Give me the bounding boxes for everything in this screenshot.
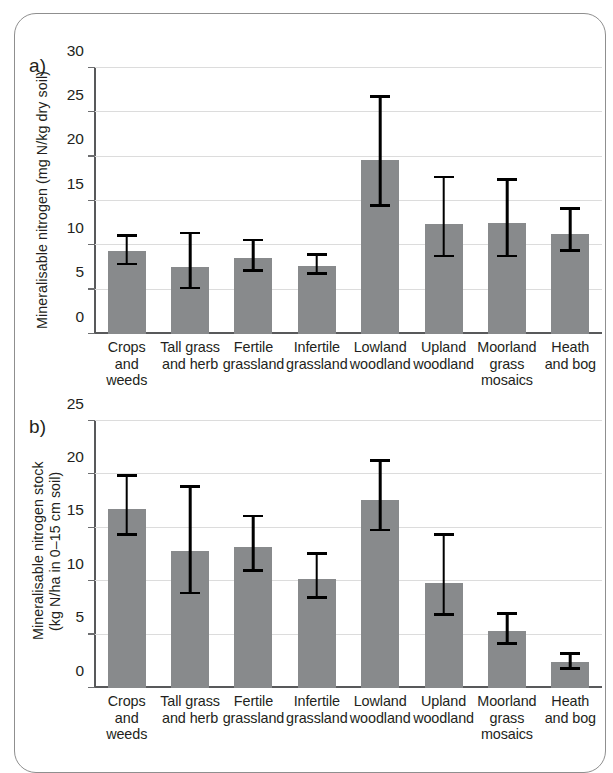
panel-b-error-cap-upper (560, 652, 580, 655)
panel-a-error-bar (125, 236, 128, 264)
panel-a-error-cap-lower (434, 255, 454, 258)
panel-b-error-cap-upper (243, 515, 263, 518)
panel-b-error-cap-lower (370, 529, 390, 532)
panel-b-error-cap-upper (117, 474, 137, 477)
panel-a-y-tick (88, 67, 95, 68)
panel-b-error-bar (442, 534, 445, 614)
panel-b-bar-group (158, 421, 221, 688)
panel-a-error-cap-upper (117, 234, 137, 237)
panel-a-bar-group (539, 68, 602, 334)
panel-b-y-tick (88, 527, 95, 528)
panel-a-error-bar (442, 177, 445, 256)
panel-b-x-label: Fertile grassland (222, 693, 285, 743)
panel-a-error-bar (506, 180, 509, 256)
panel-b-bar-group (222, 421, 285, 688)
panel-a-y-tick-label: 30 (67, 42, 84, 60)
panel-a-bar-group (475, 68, 538, 334)
panel-a-error-cap-lower (180, 287, 200, 290)
panel-a-x-label: Fertile grassland (222, 339, 285, 389)
panel-a-y-axis-title: Mineralisable nitrogen (mg N/kg dry soil… (34, 64, 51, 336)
panel-b-x-label: Infertile grassland (285, 693, 348, 743)
panel-a-y-tick (88, 288, 95, 289)
panel-a-error-cap-upper (307, 253, 327, 256)
panel-b-x-label: Heath and bog (539, 693, 602, 743)
panel-a-y-tick (88, 333, 95, 334)
panel-b-y-tick-label: 20 (67, 448, 84, 466)
panel-a-error-cap-lower (307, 272, 327, 275)
panel-a-error-cap-upper (497, 178, 517, 181)
panel-a-x-label: Infertile grassland (285, 339, 348, 389)
panel-a-error-cap-lower (560, 249, 580, 252)
panel-b-error-cap-upper (497, 612, 517, 615)
panel-a-error-cap-upper (243, 239, 263, 242)
panel-b-x-label: Upland woodland (412, 693, 475, 743)
panel-a-x-label: Upland woodland (412, 339, 475, 389)
panel-a-bar-group (222, 68, 285, 334)
panel-b-error-bar (316, 553, 319, 597)
panel-a-x-label: Moorland grass mosaics (475, 339, 538, 389)
panel-b-error-cap-upper (180, 485, 200, 488)
panel-a-error-bar (379, 96, 382, 205)
panel-b-error-cap-lower (307, 596, 327, 599)
panel-a-y-tick-label: 25 (67, 86, 84, 104)
panel-b-x-label: Moorland grass mosaics (475, 693, 538, 743)
panel-a-y-tick-label: 10 (67, 219, 84, 237)
panel-a-y-tick-label: 5 (75, 263, 84, 281)
panel-b-bar-group (285, 421, 348, 688)
panel-b-y-tick (88, 633, 95, 634)
panel-a-x-label: Crops and weeds (95, 339, 158, 389)
panel-a-y-tick-label: 15 (67, 175, 84, 193)
panel-a-bar-group (412, 68, 475, 334)
panel-b-error-bar (379, 461, 382, 530)
panel-b-error-cap-lower (243, 569, 263, 572)
panel-a-error-bar (316, 254, 319, 274)
panel-b-error-cap-upper (307, 552, 327, 555)
panel-b-bar-group (95, 421, 158, 688)
panel-a-bar (298, 266, 336, 334)
panel-b-error-bar (506, 613, 509, 643)
panel-a-plot-area: 051015202530 (95, 68, 602, 334)
panel-a-y-tick-label: 20 (67, 130, 84, 148)
panel-b-y-tick-label: 0 (75, 662, 84, 680)
panel-b-y-tick-label: 15 (67, 501, 84, 519)
panel-b-error-bar (252, 516, 255, 570)
panel-b-y-tick-label: 5 (75, 608, 84, 626)
panel-a-error-cap-upper (180, 232, 200, 235)
panel-b-error-cap-lower (117, 533, 137, 536)
panel-b-error-cap-upper (370, 459, 390, 462)
panel-b-y-tick-label: 10 (67, 555, 84, 573)
panel-a-y-tick (88, 111, 95, 112)
panel-a-y-tick (88, 244, 95, 245)
panel-a-x-label: Tall grass and herb (158, 339, 221, 389)
chart-panel-a: a) Mineralisable nitrogen (mg N/kg dry s… (0, 0, 613, 394)
panel-b-error-cap-upper (434, 533, 454, 536)
panel-a-error-cap-upper (560, 207, 580, 210)
panel-b-error-bar (189, 486, 192, 593)
panel-a-bar-group (158, 68, 221, 334)
panel-b-error-cap-lower (180, 592, 200, 595)
panel-b-error-bar (125, 475, 128, 534)
panel-b-y-tick (88, 473, 95, 474)
panel-b-y-axis-title: Mineralisable nitrogen stock (kg N/ha in… (30, 408, 64, 694)
panel-a-bar-group (285, 68, 348, 334)
panel-a-y-tick (88, 155, 95, 156)
panel-b-x-label: Tall grass and herb (158, 693, 221, 743)
panel-b-y-tick-label: 25 (67, 395, 84, 413)
panel-b-bar-group (412, 421, 475, 688)
panel-a-error-bar (189, 233, 192, 288)
panel-a-x-axis-labels: Crops and weedsTall grass and herbFertil… (95, 339, 602, 389)
panel-a-error-bar (569, 208, 572, 251)
panel-a-y-tick-label: 0 (75, 308, 84, 326)
chart-panel-b: b) Mineralisable nitrogen stock (kg N/ha… (0, 394, 613, 748)
panel-b-plot-area: 0510152025 (95, 421, 602, 688)
panel-b-error-cap-lower (434, 613, 454, 616)
panel-b-x-axis-labels: Crops and weedsTall grass and herbFertil… (95, 693, 602, 743)
panel-b-bar-group (475, 421, 538, 688)
panel-b-bar-group (349, 421, 412, 688)
panel-b-bar-group (539, 421, 602, 688)
panel-a-error-cap-lower (370, 204, 390, 207)
panel-a-error-cap-lower (497, 255, 517, 258)
panel-a-x-label: Heath and bog (539, 339, 602, 389)
panel-a-bar-group (349, 68, 412, 334)
panel-b-error-cap-lower (497, 642, 517, 645)
